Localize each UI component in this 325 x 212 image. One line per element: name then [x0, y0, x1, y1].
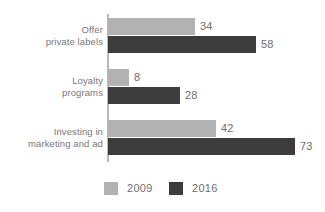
category-label-offer-private-labels: Offer private labels	[0, 24, 103, 47]
bar-2016-offer-private-labels[interactable]	[108, 36, 256, 53]
legend-swatch-2016-icon	[169, 182, 183, 195]
category-group-loyalty-programs: Loyalty programs 8 28	[0, 69, 325, 109]
chart-legend: 2009 2016	[0, 180, 325, 198]
bar-2016-investing-marketing-ad[interactable]	[108, 138, 295, 155]
legend-item-2016[interactable]: 2016	[169, 180, 218, 196]
category-group-offer-private-labels: Offer private labels 34 58	[0, 18, 325, 58]
bar-value-2009-offer-private-labels: 34	[200, 18, 213, 35]
bar-2009-loyalty-programs[interactable]	[108, 69, 129, 86]
bar-value-2016-offer-private-labels: 58	[261, 36, 274, 53]
bar-chart: Offer private labels 34 58 Loyalty progr…	[0, 0, 325, 212]
bar-value-2016-investing-marketing-ad: 73	[300, 138, 313, 155]
legend-swatch-2009-icon	[104, 182, 118, 195]
bar-value-2009-loyalty-programs: 8	[134, 69, 140, 86]
category-label-investing-marketing-ad: Investing in marketing and ad	[0, 126, 103, 149]
bar-2016-loyalty-programs[interactable]	[108, 87, 180, 104]
legend-item-2009[interactable]: 2009	[104, 180, 153, 196]
legend-label-2009: 2009	[127, 182, 153, 194]
category-label-loyalty-programs: Loyalty programs	[0, 75, 103, 98]
bar-2009-investing-marketing-ad[interactable]	[108, 120, 216, 137]
legend-label-2016: 2016	[192, 182, 218, 194]
bar-value-2016-loyalty-programs: 28	[185, 87, 198, 104]
plot-area: Offer private labels 34 58 Loyalty progr…	[0, 0, 325, 170]
category-group-investing-marketing-ad: Investing in marketing and ad 42 73	[0, 120, 325, 160]
bar-value-2009-investing-marketing-ad: 42	[221, 120, 234, 137]
bar-2009-offer-private-labels[interactable]	[108, 18, 195, 35]
